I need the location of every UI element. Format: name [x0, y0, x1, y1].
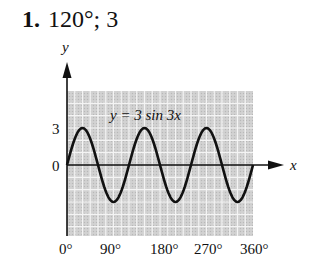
x-tick-180: 180°: [150, 241, 179, 257]
equation-label: y = 3 sin 3x: [108, 107, 181, 123]
x-tick-90: 90°: [100, 241, 121, 257]
y-axis-arrow-icon: [63, 62, 72, 78]
y-axis-label: y: [60, 39, 69, 55]
y-tick-0: 0: [52, 158, 60, 174]
x-axis-label: x: [289, 157, 297, 173]
x-axis-arrow-icon: [268, 161, 284, 170]
y-tick-3: 3: [52, 121, 60, 137]
x-tick-360: 360°: [240, 241, 269, 257]
x-tick-0: 0°: [59, 241, 73, 257]
sine-chart: y x y = 3 sin 3x 3 0 0° 90° 180° 270° 36…: [0, 0, 319, 263]
x-tick-270: 270°: [194, 241, 223, 257]
